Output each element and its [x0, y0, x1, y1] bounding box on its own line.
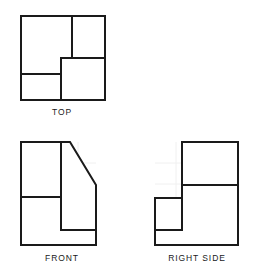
- front-view-label: FRONT: [45, 253, 79, 263]
- right-side-view-group: RIGHT SIDE: [155, 142, 238, 263]
- top-view-label: TOP: [52, 107, 72, 117]
- right-side-view-label: RIGHT SIDE: [168, 253, 226, 263]
- orthographic-projection-svg: TOP FRONT RIGHT SIDE: [0, 0, 260, 276]
- top-view-group: TOP: [21, 16, 105, 117]
- front-view-group: FRONT: [21, 142, 96, 263]
- technical-drawing-sheet: TOP FRONT RIGHT SIDE: [0, 0, 260, 276]
